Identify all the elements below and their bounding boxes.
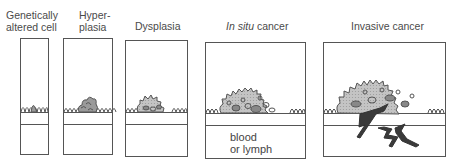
box-invasive-cancer xyxy=(324,43,446,157)
annotation-blood-or-lymph: blood or lymph xyxy=(230,131,272,155)
box-dysplasia xyxy=(126,41,188,157)
annotation-line: or lymph xyxy=(230,143,272,155)
box-genetically-altered-cell xyxy=(21,39,49,155)
annotation-line: blood xyxy=(230,131,272,143)
box-hyperplasia xyxy=(64,39,117,155)
dysplasia-cells-icon xyxy=(137,95,164,112)
invasive-projection-icon xyxy=(395,124,419,147)
altered-cell-icon xyxy=(31,105,37,112)
